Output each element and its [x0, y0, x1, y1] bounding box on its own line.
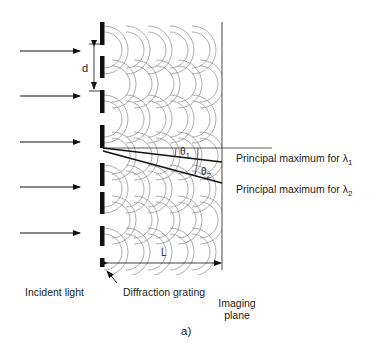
diffraction-grating-label: Diffraction grating [123, 286, 205, 298]
incident-light-arrows [20, 51, 80, 233]
theta1-label: θ1 [180, 146, 190, 162]
wavefront-arc [126, 234, 144, 270]
principal-max-lambda1-label: Principal maximum for λ1 [236, 152, 352, 169]
diffraction-grating [100, 22, 105, 267]
wavefront-arc [170, 26, 194, 74]
wavefront-arc [104, 228, 128, 276]
grating-bar [100, 90, 105, 113]
principal-max-lambda2-label: Principal maximum for λ2 [236, 183, 352, 200]
slit-spacing-label: d [82, 62, 88, 74]
grating-bar [100, 56, 105, 78]
wavefront-arc [192, 234, 210, 270]
grating-bar [100, 22, 105, 45]
wavefront-arc [104, 101, 122, 137]
wavefront-arc [170, 234, 188, 270]
grating-bar [100, 125, 105, 148]
wavefront-arc [170, 32, 188, 68]
wavefront-arc [104, 165, 128, 213]
wavefront-arc [126, 228, 150, 276]
wavefront-arc [126, 26, 150, 74]
wavefront-arc [126, 171, 144, 207]
wavefront-arc [192, 228, 216, 276]
wavefront-arc [104, 234, 122, 270]
wavefront-arc [134, 138, 152, 174]
wavefront-arc [192, 26, 216, 74]
wavefront-arc [104, 32, 122, 68]
incident-light-label: Incident light [25, 286, 84, 298]
wavefront-arc [170, 101, 188, 137]
wavefront-arc [192, 101, 210, 137]
theta2-label: θ2 [201, 166, 211, 182]
grating-bar [100, 163, 105, 186]
wavefront-arc [178, 202, 196, 238]
grating-bar [100, 226, 105, 246]
wavefront-arc [104, 26, 128, 74]
wavefront-arc [134, 132, 158, 180]
wavefront-arc [148, 228, 172, 276]
wavefront-arc [112, 202, 130, 238]
wavefront-arc [148, 32, 166, 68]
panel-label: a) [181, 325, 191, 337]
wavefront-arc [156, 202, 174, 238]
diffraction-grating-diagram: d L θ1 θ2 Principal maximum for λ1 Princ… [0, 0, 369, 359]
theta1-arc [175, 148, 176, 157]
wavefront-arc [148, 101, 166, 137]
wavefront-arc [200, 202, 218, 238]
imaging-plane-label: Imaging plane [214, 297, 260, 321]
slit-spacing-marker [89, 44, 101, 91]
wavefront-arc [200, 60, 224, 108]
wavefront-arc [148, 26, 172, 74]
diagram-canvas [0, 0, 369, 359]
grating-bar [100, 258, 105, 267]
wavefront-arc [126, 101, 144, 137]
wavefront-arc [170, 171, 188, 207]
wavefront-arc [126, 32, 144, 68]
distance-label: L [161, 247, 167, 259]
grating-bar [100, 192, 105, 214]
wavefront-arc [104, 171, 122, 207]
wavefront-arc [192, 32, 210, 68]
wavefront-arc [170, 228, 194, 276]
wavefront-arc [134, 202, 152, 238]
wavefront-arc [148, 171, 166, 207]
